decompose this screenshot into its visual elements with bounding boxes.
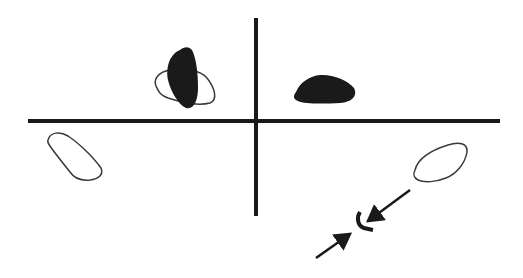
arrow-from-upper-right [368,190,410,221]
outline-blob-lower-left [48,133,102,180]
quadrant-diagram [0,0,523,278]
arrow-from-lower-left [316,234,350,258]
curved-bracket-icon [358,212,373,230]
filled-blob-upper-right [294,75,355,104]
outline-blob-lower-right [414,143,467,182]
